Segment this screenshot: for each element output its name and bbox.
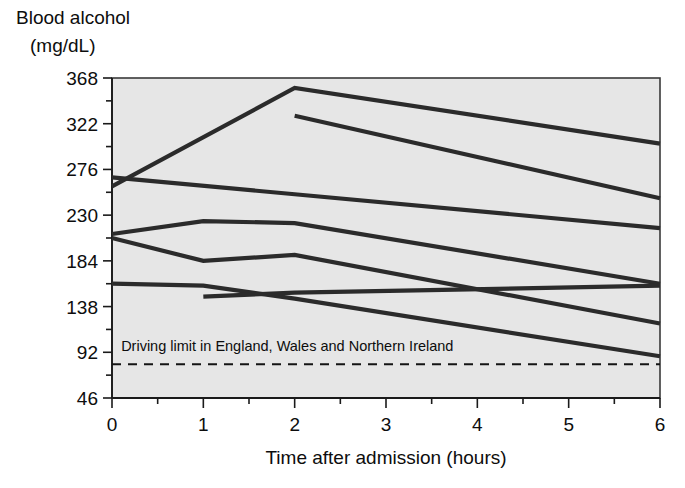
y-tick-label: 230	[66, 205, 98, 226]
y-tick-label: 368	[66, 68, 98, 89]
x-tick-label: 4	[472, 414, 483, 435]
y-axis-tick-labels: 4692138184230276322368	[66, 68, 98, 409]
x-tick-label: 2	[289, 414, 300, 435]
y-tick-label: 92	[77, 342, 98, 363]
y-tick-label: 184	[66, 251, 98, 272]
x-tick-label: 1	[198, 414, 209, 435]
y-tick-label: 46	[77, 388, 98, 409]
x-axis-tick-labels: 0123456	[107, 414, 666, 435]
blood-alcohol-figure: Blood alcohol (mg/dL) 469213818423027632…	[0, 0, 685, 488]
chart-title-line2: (mg/dL)	[30, 35, 95, 56]
y-tick-label: 322	[66, 114, 98, 135]
x-tick-label: 3	[381, 414, 392, 435]
y-tick-label: 276	[66, 159, 98, 180]
chart-title-line1: Blood alcohol	[16, 7, 130, 28]
blood-alcohol-line-chart: Blood alcohol (mg/dL) 469213818423027632…	[0, 0, 685, 488]
x-axis-title: Time after admission (hours)	[265, 447, 506, 468]
driving-limit-label: Driving limit in England, Wales and Nort…	[121, 338, 453, 354]
x-tick-label: 5	[563, 414, 574, 435]
y-axis-ticks	[103, 78, 112, 398]
x-tick-label: 0	[107, 414, 118, 435]
x-tick-label: 6	[655, 414, 666, 435]
x-axis-ticks	[112, 398, 660, 408]
y-tick-label: 138	[66, 297, 98, 318]
